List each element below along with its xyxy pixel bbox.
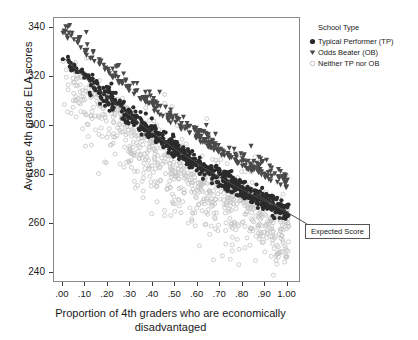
y-axis-tick <box>49 125 53 126</box>
data-point-neither <box>81 127 85 131</box>
data-point-neither <box>248 243 252 247</box>
y-axis-tick <box>49 174 53 175</box>
x-axis-tick <box>174 282 175 286</box>
data-point-neither <box>229 208 233 212</box>
data-point-neither <box>141 189 145 193</box>
data-point-odds-beater <box>232 147 237 152</box>
data-point-neither <box>222 198 226 202</box>
data-point-neither <box>250 180 254 184</box>
data-point-typical-performer <box>227 174 231 178</box>
data-point-neither <box>107 132 111 136</box>
data-point-neither <box>219 197 223 201</box>
data-point-odds-beater <box>132 92 137 97</box>
data-point-typical-performer <box>139 133 143 137</box>
data-point-typical-performer <box>229 169 233 173</box>
data-point-typical-performer <box>103 89 107 93</box>
data-point-neither <box>83 144 87 148</box>
data-point-neither <box>64 68 68 72</box>
data-point-typical-performer <box>107 109 111 113</box>
data-point-neither <box>99 126 103 130</box>
data-point-neither <box>272 247 276 251</box>
legend-label-typical-performer: Typical Performer (TP) <box>318 36 393 47</box>
data-point-neither <box>193 195 197 199</box>
data-point-typical-performer <box>140 127 144 131</box>
data-point-odds-beater <box>194 136 199 141</box>
data-point-typical-performer <box>229 189 233 193</box>
data-point-neither <box>129 165 133 169</box>
data-point-neither <box>132 179 136 183</box>
chart-root: 240260280300320340.00.10.20.30.40.50.60.… <box>0 0 418 340</box>
data-point-neither <box>271 273 275 277</box>
data-point-neither <box>90 109 94 113</box>
data-point-neither <box>72 91 76 95</box>
x-axis-tick <box>107 282 108 286</box>
data-point-neither <box>237 247 241 251</box>
data-point-neither <box>168 179 172 183</box>
data-point-typical-performer <box>131 105 135 109</box>
data-point-typical-performer <box>240 194 244 198</box>
legend-item-neither[interactable]: Neither TP nor OB <box>307 58 415 69</box>
data-point-neither <box>235 237 239 241</box>
data-point-neither <box>126 128 130 132</box>
data-point-typical-performer <box>198 160 202 164</box>
data-point-typical-performer <box>144 111 148 115</box>
data-point-neither <box>254 259 258 263</box>
data-point-typical-performer <box>188 161 192 165</box>
legend-item-typical-performer[interactable]: Typical Performer (TP) <box>307 36 415 47</box>
x-axis-tick-label: 1.00 <box>270 289 304 299</box>
data-point-neither <box>86 134 90 138</box>
data-point-neither <box>148 174 152 178</box>
data-point-typical-performer <box>150 116 154 120</box>
legend: School Type Typical Performer (TP) Odds … <box>307 22 415 69</box>
data-point-odds-beater <box>78 45 83 50</box>
data-point-typical-performer <box>216 180 220 184</box>
data-point-typical-performer <box>210 181 214 185</box>
data-point-neither <box>158 165 162 169</box>
data-point-typical-performer <box>176 143 180 147</box>
data-point-typical-performer <box>201 177 205 181</box>
data-point-typical-performer <box>170 139 174 143</box>
data-point-typical-performer <box>181 145 185 149</box>
data-point-typical-performer <box>209 165 213 169</box>
legend-item-odds-beater[interactable]: Odds Beater (OB) <box>307 47 415 58</box>
data-point-neither <box>100 134 104 138</box>
data-point-odds-beater <box>264 158 269 163</box>
data-point-neither <box>269 254 273 258</box>
data-point-odds-beater <box>92 59 97 64</box>
data-point-neither <box>184 142 188 146</box>
data-point-neither <box>274 258 278 262</box>
data-point-neither <box>62 103 66 107</box>
data-point-typical-performer <box>95 79 99 83</box>
data-point-neither <box>230 235 234 239</box>
data-point-typical-performer <box>220 172 224 176</box>
data-point-neither <box>217 223 221 227</box>
data-point-neither <box>173 209 177 213</box>
data-point-neither <box>230 243 234 247</box>
data-point-neither <box>180 137 184 141</box>
data-point-neither <box>186 221 190 225</box>
data-point-odds-beater <box>249 144 254 149</box>
data-point-odds-beater <box>84 30 89 35</box>
data-point-odds-beater <box>278 183 283 188</box>
data-point-neither <box>113 152 117 156</box>
data-point-neither <box>200 209 204 213</box>
data-point-neither <box>140 179 144 183</box>
data-point-neither <box>211 258 215 262</box>
data-point-odds-beater <box>121 71 126 76</box>
data-point-neither <box>151 170 155 174</box>
y-axis-tick-label: 240 <box>11 267 45 277</box>
data-point-odds-beater <box>168 120 173 125</box>
expected-score-callout: Expected Score <box>305 224 370 239</box>
data-point-neither <box>215 211 219 215</box>
data-point-typical-performer <box>190 149 194 153</box>
data-point-neither <box>150 212 154 216</box>
data-point-neither <box>74 115 78 119</box>
data-point-neither <box>205 117 209 121</box>
data-point-typical-performer <box>162 144 166 148</box>
data-point-neither <box>66 88 70 92</box>
data-point-neither <box>286 240 290 244</box>
data-point-neither <box>160 156 164 160</box>
data-point-neither <box>153 167 157 171</box>
data-point-neither <box>243 224 247 228</box>
data-point-neither <box>142 161 146 165</box>
